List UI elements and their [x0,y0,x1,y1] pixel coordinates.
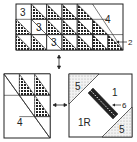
label-2: 2 [128,38,133,47]
label-3: 3 [20,7,26,18]
label-4: 4 [17,117,23,128]
label-5: 5 [119,124,125,135]
quilt-diagram: 3 3 3 4 2 4 [0,0,137,142]
horizontal-double-arrow [53,104,67,107]
label-6: 6 [122,101,127,110]
bottom-left-unit: 4 [4,74,50,138]
label-4: 4 [105,14,111,25]
label-1r: 1R [78,117,91,128]
label-1: 1 [112,87,118,98]
label-3: 3 [36,22,42,33]
label-3: 3 [51,37,57,48]
label-5: 5 [75,81,81,92]
vertical-double-arrow [58,55,61,69]
bottom-right-unit: 5 1 1R 5 6 [69,74,132,137]
top-unit: 3 3 3 4 2 [16,4,133,50]
